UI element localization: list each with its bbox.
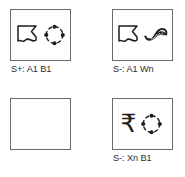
panel-bottom-right[interactable]: ₹ S-: Xn B1 [112, 98, 173, 164]
panel-caption: S-: A1 Wn [112, 64, 173, 75]
stimulus-panel[interactable] [10, 9, 71, 61]
panel-top-left[interactable]: S+: A1 B1 [10, 9, 71, 75]
dashed-circle-four-dots-icon [42, 22, 67, 48]
stimulus-panel[interactable]: ₹ [112, 98, 173, 150]
panel-bottom-left[interactable] [10, 98, 71, 153]
panel-top-right[interactable]: S-: A1 Wn [112, 9, 173, 75]
stimulus-panel-empty[interactable] [10, 98, 71, 150]
stimulus-panel[interactable] [112, 9, 173, 61]
wavy-banner-icon [15, 22, 39, 48]
panel-caption: S+: A1 B1 [10, 64, 71, 75]
stimulus-grid: S+: A1 B1 S-: A1 Wn ₹ [0, 0, 185, 177]
rupee-sign-icon: ₹ [121, 111, 137, 136]
swoosh-ribbon-icon [143, 22, 169, 48]
panel-caption: S-: Xn B1 [112, 153, 173, 164]
dashed-circle-four-dots-icon [139, 111, 164, 137]
wavy-banner-icon [116, 22, 140, 48]
